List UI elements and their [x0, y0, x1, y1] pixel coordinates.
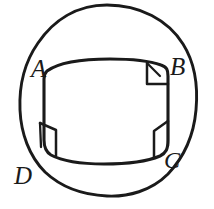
vertex-label-d: D [14, 163, 32, 188]
right-angle-mark-bottom-left-edge [40, 123, 41, 147]
vertex-label-c: C [164, 148, 180, 172]
geometry-figure: A B C D [0, 0, 214, 209]
inner-quadrilateral [44, 59, 168, 164]
vertex-label-b: B [170, 54, 185, 79]
vertex-label-a: A [31, 56, 46, 81]
figure-canvas [0, 0, 214, 209]
